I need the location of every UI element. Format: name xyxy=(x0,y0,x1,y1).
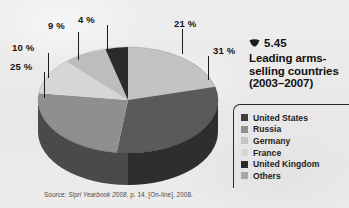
source-title: Sipri Yearbook 2008 xyxy=(68,191,126,198)
source-suffix: , p. 14, [On-line], 2008. xyxy=(127,191,193,198)
legend-swatch-france xyxy=(241,149,248,156)
leader-line-france xyxy=(48,53,49,78)
pie-label-france: 10 % xyxy=(12,42,34,53)
legend-swatch-others xyxy=(241,172,248,179)
legend-swatch-germany xyxy=(241,137,248,144)
leader-line-germany xyxy=(182,29,183,54)
legend: United States Russia Germany France Unit… xyxy=(233,104,349,188)
legend-label-russia: Russia xyxy=(253,124,281,134)
chart-figure: 21 % 31 % 4 % 9 % 10 % 25 % 5.45 Leading… xyxy=(0,0,349,208)
legend-label-united-states: United States xyxy=(253,113,308,123)
pie-label-united-states: 31 % xyxy=(213,45,235,56)
legend-swatch-russia xyxy=(241,126,248,133)
title-line-1: Leading arms- xyxy=(249,52,349,65)
legend-label-united-kingdom: United Kingdom xyxy=(253,159,319,169)
pie-chart-svg xyxy=(36,46,220,188)
figure-number: 5.45 xyxy=(264,37,287,49)
leader-line-russia xyxy=(44,72,45,98)
source-note: Source: Sipri Yearbook 2008, p. 14, [On-… xyxy=(44,191,193,198)
legend-item-united-states[interactable]: United States xyxy=(241,112,349,124)
leader-line-others xyxy=(78,32,79,60)
legend-item-germany[interactable]: Germany xyxy=(241,135,349,147)
marker-row: 5.45 xyxy=(249,36,349,49)
legend-label-france: France xyxy=(253,148,281,158)
legend-swatch-united-kingdom xyxy=(241,161,248,168)
legend-item-others[interactable]: Others xyxy=(241,170,349,182)
title-line-2: selling countries xyxy=(249,65,349,78)
leader-line-united-states xyxy=(208,56,209,80)
legend-label-germany: Germany xyxy=(253,136,290,146)
pie-chart xyxy=(36,46,220,188)
pie-label-russia: 25 % xyxy=(10,61,32,72)
legend-item-united-kingdom[interactable]: United Kingdom xyxy=(241,158,349,170)
legend-item-russia[interactable]: Russia xyxy=(241,124,349,136)
source-prefix: Source: xyxy=(44,191,68,198)
title-block: 5.45 Leading arms- selling countries (20… xyxy=(249,36,349,90)
pie-label-united-kingdom: 4 % xyxy=(78,14,95,25)
pie-label-germany: 21 % xyxy=(174,18,196,29)
pie-label-others: 9 % xyxy=(48,20,65,31)
title-line-3: (2003–2007) xyxy=(249,77,349,90)
triangle-down-icon xyxy=(249,39,260,47)
legend-swatch-united-states xyxy=(241,114,248,121)
page-title: Leading arms- selling countries (2003–20… xyxy=(249,52,349,90)
legend-item-france[interactable]: France xyxy=(241,147,349,159)
leader-line-united-kingdom xyxy=(107,25,108,52)
legend-label-others: Others xyxy=(253,171,281,181)
